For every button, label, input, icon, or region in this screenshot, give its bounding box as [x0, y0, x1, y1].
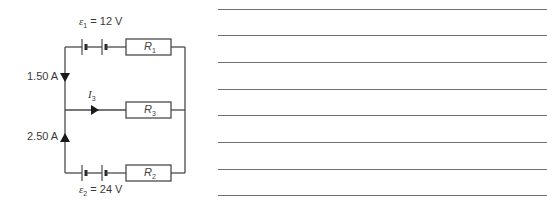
answer-line	[218, 115, 547, 116]
answer-line	[218, 169, 547, 170]
answer-area	[218, 0, 547, 218]
answer-line	[218, 9, 547, 10]
current-i3-label: I3	[88, 88, 96, 102]
current-arrow-right-icon	[91, 105, 99, 115]
current-arrow-up-icon	[60, 133, 70, 142]
answer-line	[218, 62, 547, 63]
answer-line	[218, 195, 547, 196]
answer-line	[218, 142, 547, 143]
bottom-branch	[65, 165, 185, 181]
top-branch	[65, 39, 185, 55]
current-top-label: 1.50 A	[27, 70, 58, 82]
current-arrow-down-icon	[60, 73, 70, 82]
answer-line	[218, 35, 547, 36]
answer-line	[218, 89, 547, 90]
emf1-label: ε1 = 12 V	[79, 15, 122, 29]
resistor-r3-label: R3	[144, 103, 156, 117]
resistor-r2-label: R2	[144, 166, 156, 180]
middle-branch	[65, 102, 185, 118]
resistor-r1-label: R1	[144, 40, 156, 54]
current-bottom-label: 2.50 A	[27, 130, 58, 142]
emf2-label: ε2 = 24 V	[79, 183, 122, 197]
